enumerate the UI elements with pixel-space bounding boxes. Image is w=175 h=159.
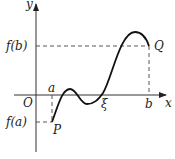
f-b-label: f(b) [6, 40, 28, 52]
point-p-label: P [53, 124, 61, 136]
y-axis-label: y [26, 0, 33, 10]
point-q-label: Q [154, 40, 164, 52]
b-label: b [145, 98, 153, 110]
a-label: a [48, 82, 55, 94]
function-graph-diagram: y x O f(b) f(a) a b ξ P Q [0, 0, 175, 159]
f-a-label: f(a) [6, 116, 27, 128]
graph-canvas [0, 0, 175, 159]
origin-label: O [23, 97, 33, 109]
x-axis-label: x [165, 97, 172, 109]
xi-label: ξ [101, 98, 108, 110]
